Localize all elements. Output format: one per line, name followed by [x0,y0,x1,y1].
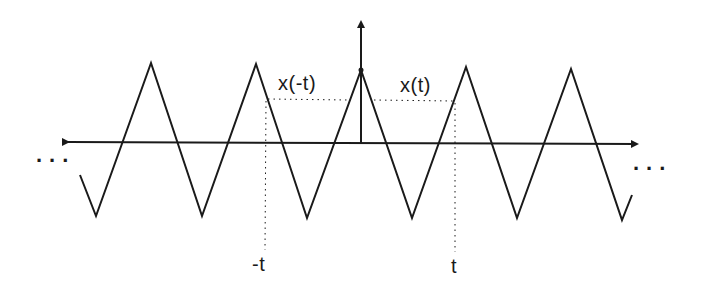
ellipsis-left: ... [36,142,75,168]
label-x-neg-t: x(-t) [278,72,316,95]
ellipsis-right: ... [633,150,672,176]
even-signal-diagram [0,0,711,295]
origin-peak-dot [359,68,364,73]
label-t: t [451,255,457,278]
neg-t-guide [265,101,266,250]
horizontal-axis [68,142,637,144]
label-neg-t: -t [252,253,265,276]
level-guide-left [268,99,348,100]
label-x-t: x(t) [400,74,431,97]
level-guide-right [374,100,453,101]
